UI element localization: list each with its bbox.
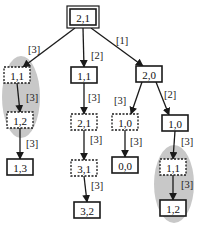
node-label: 2,1: [77, 117, 91, 129]
edge-arrow: [83, 28, 84, 67]
node-label: 1,0: [118, 117, 132, 129]
node-label: 0,0: [118, 160, 132, 172]
edge-label: [3]: [26, 138, 38, 149]
node-label: 3,2: [80, 205, 94, 217]
node-label: 1,0: [168, 118, 182, 130]
tree-diagram: [3][2][1][3][3][3][3][3][3][2][3][3][3] …: [0, 0, 207, 229]
edge-label: [3]: [28, 44, 40, 55]
edge-label: [3]: [130, 136, 142, 147]
edge-label: [2]: [91, 50, 103, 61]
tree-node: 2,0: [136, 66, 162, 82]
tree-node: 1,1: [160, 159, 186, 175]
tree-node: 1,2: [7, 112, 33, 128]
edge-label: [3]: [181, 136, 193, 147]
edge-arrow: [131, 82, 142, 114]
node-label: 1,3: [13, 162, 27, 174]
tree-node: 1,2: [160, 200, 186, 216]
tree-node: 3,2: [74, 202, 100, 218]
tree-node: 1,0: [112, 114, 138, 130]
edge-label: [3]: [114, 95, 126, 106]
edge-label: [3]: [181, 179, 193, 190]
edge-label: [3]: [88, 92, 100, 103]
edge-label: [3]: [90, 134, 102, 145]
node-label: 2,0: [142, 69, 156, 81]
tree-node: 1,3: [7, 159, 33, 175]
tree-node: 1,1: [71, 67, 97, 83]
edge-label: [3]: [26, 92, 38, 103]
node-label: 2,1: [76, 12, 90, 24]
edge-label: [1]: [116, 35, 128, 46]
tree-node: 2,1: [71, 114, 97, 130]
edge-label: [2]: [164, 89, 176, 100]
tree-node: 2,1: [67, 6, 99, 28]
node-label: 1,1: [77, 70, 91, 82]
node-label: 3,1: [77, 163, 91, 175]
tree-node: 1,1: [4, 67, 30, 83]
node-label: 1,1: [10, 70, 24, 82]
edge-arrow: [84, 176, 87, 202]
node-label: 1,1: [166, 162, 180, 174]
tree-node: 0,0: [112, 157, 138, 173]
tree-node: 1,0: [162, 115, 188, 131]
edge-label: [3]: [91, 180, 103, 191]
node-label: 1,2: [166, 203, 180, 215]
node-label: 1,2: [13, 115, 27, 127]
tree-node: 3,1: [71, 160, 97, 176]
